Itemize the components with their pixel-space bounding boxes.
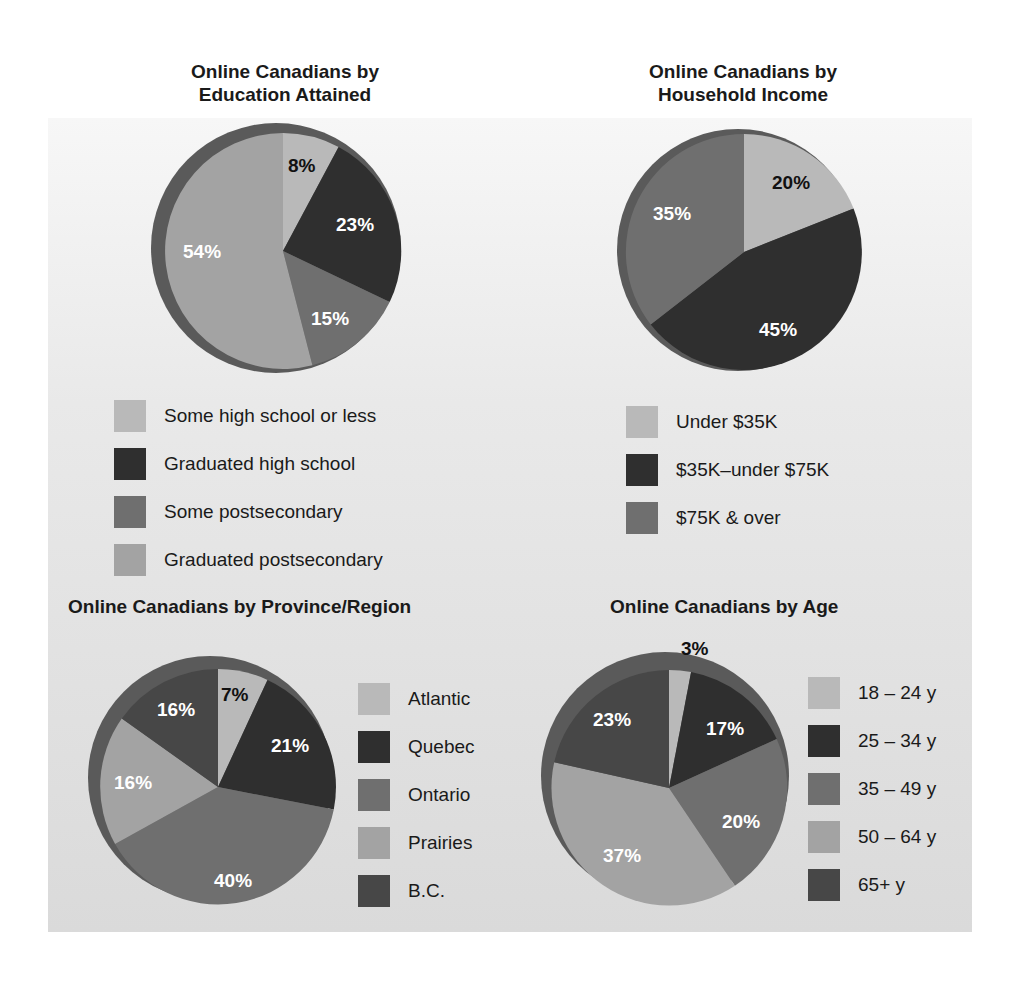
swatch-icon bbox=[808, 821, 840, 853]
legend-label: 25 – 34 y bbox=[858, 730, 936, 752]
legend-label: 50 – 64 y bbox=[858, 826, 936, 848]
swatch-icon bbox=[808, 677, 840, 709]
legend-label: 35 – 49 y bbox=[858, 778, 936, 800]
legend-item: 25 – 34 y bbox=[808, 717, 936, 765]
legend-label: 18 – 24 y bbox=[858, 682, 936, 704]
age-label-2: 20% bbox=[722, 811, 760, 832]
age-label-0: 3% bbox=[681, 638, 709, 659]
age-slices bbox=[551, 670, 787, 906]
legend-item: 50 – 64 y bbox=[808, 813, 936, 861]
age-legend: 18 – 24 y 25 – 34 y 35 – 49 y 50 – 64 y … bbox=[808, 669, 936, 909]
legend-item: 65+ y bbox=[808, 861, 936, 909]
swatch-icon bbox=[808, 869, 840, 901]
swatch-icon bbox=[808, 773, 840, 805]
swatch-icon bbox=[808, 725, 840, 757]
legend-item: 35 – 49 y bbox=[808, 765, 936, 813]
age-label-3: 37% bbox=[603, 845, 641, 866]
age-label-1: 17% bbox=[706, 718, 744, 739]
legend-label: 65+ y bbox=[858, 874, 905, 896]
legend-item: 18 – 24 y bbox=[808, 669, 936, 717]
age-label-4: 23% bbox=[593, 709, 631, 730]
